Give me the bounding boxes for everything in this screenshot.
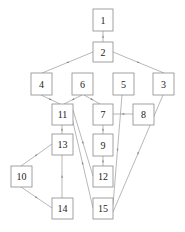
node-label: 9 xyxy=(101,140,106,151)
node-label: 14 xyxy=(58,203,68,214)
node-label: 8 xyxy=(141,109,146,120)
arrowhead-icon xyxy=(137,152,139,155)
node-14: 14 xyxy=(52,198,73,219)
node-label: 3 xyxy=(161,79,166,90)
arrowhead-icon xyxy=(61,175,63,178)
node-label: 2 xyxy=(101,47,106,58)
directed-graph-diagram: 124653117813910121415 xyxy=(0,0,185,232)
node-7: 7 xyxy=(93,104,113,125)
arrowhead-icon xyxy=(49,98,52,100)
node-label: 6 xyxy=(80,79,85,90)
node-10: 10 xyxy=(11,166,32,187)
arrowhead-icon xyxy=(121,113,124,115)
arrowhead-icon xyxy=(102,128,104,131)
node-label: 11 xyxy=(58,109,68,120)
node-label: 1 xyxy=(101,15,106,26)
node-11: 11 xyxy=(52,104,73,125)
node-13: 13 xyxy=(52,134,73,155)
node-9: 9 xyxy=(93,134,113,156)
node-label: 13 xyxy=(58,139,68,150)
arrowhead-icon xyxy=(137,61,140,63)
node-15: 15 xyxy=(93,198,113,219)
arrowhead-icon xyxy=(102,159,104,162)
node-label: 15 xyxy=(98,203,108,214)
arrowhead-icon xyxy=(72,98,75,100)
node-3: 3 xyxy=(153,73,174,95)
node-label: 12 xyxy=(98,171,108,182)
node-6: 6 xyxy=(72,73,93,95)
node-4: 4 xyxy=(31,73,52,95)
arrowhead-icon xyxy=(82,161,84,164)
node-2: 2 xyxy=(93,42,113,62)
arrowhead-icon xyxy=(102,35,104,38)
nodes-layer: 124653117813910121415 xyxy=(11,9,174,219)
node-5: 5 xyxy=(113,73,134,95)
arrowhead-icon xyxy=(61,128,63,131)
node-12: 12 xyxy=(93,166,113,187)
node-label: 4 xyxy=(39,79,44,90)
node-label: 7 xyxy=(101,109,106,120)
arrowhead-icon xyxy=(90,98,93,100)
node-label: 10 xyxy=(17,171,27,182)
node-label: 5 xyxy=(121,79,126,90)
arrowhead-icon xyxy=(66,61,69,63)
node-1: 1 xyxy=(93,9,113,31)
arrowhead-icon xyxy=(82,141,84,144)
node-8: 8 xyxy=(133,104,154,125)
